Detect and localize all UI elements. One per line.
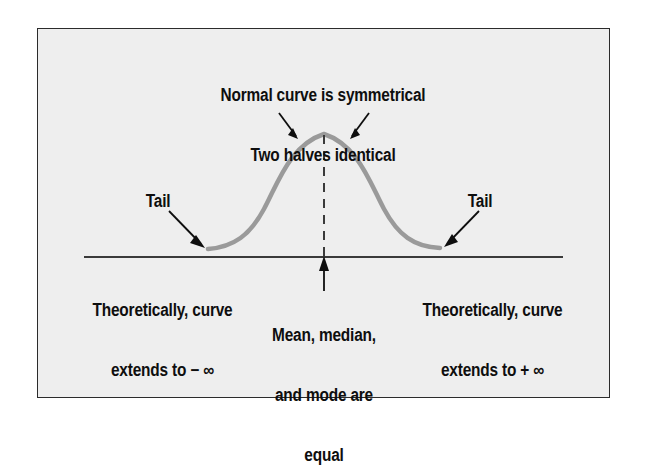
tail-label-left: Tail: [123, 192, 193, 212]
right-note-line-2: extends to + ∞: [398, 361, 587, 381]
diagram-title: Normal curve is symmetrical Two halves i…: [39, 46, 607, 206]
left-note-line-2: extends to − ∞: [68, 361, 257, 381]
center-note-line-1: Mean, median,: [248, 326, 399, 346]
title-line-2: Two halves identical: [39, 146, 607, 166]
title-line-1: Normal curve is symmetrical: [39, 86, 607, 106]
center-note-line-3: equal: [248, 446, 399, 466]
left-tail-note: Theoretically, curve extends to − ∞: [68, 261, 257, 421]
tail-arrow-right: [444, 211, 479, 247]
tail-arrow-left: [169, 211, 205, 248]
central-tendency-note: Mean, median, and mode are equal: [248, 286, 399, 469]
left-note-line-1: Theoretically, curve: [68, 301, 257, 321]
tail-label-right: Tail: [445, 192, 515, 212]
right-tail-note: Theoretically, curve extends to + ∞: [398, 261, 587, 421]
center-note-line-2: and mode are: [248, 386, 399, 406]
right-note-line-1: Theoretically, curve: [398, 301, 587, 321]
